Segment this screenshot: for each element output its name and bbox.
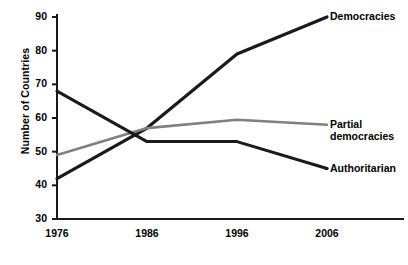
x-axis-tick-label: 2006 [302, 227, 352, 239]
x-axis-tick-label: 1976 [32, 227, 82, 239]
series-label-partial-line2: democracies [330, 130, 394, 142]
series-line-partial-democracies [57, 120, 327, 155]
axis-lines [57, 14, 404, 219]
y-axis-tick-label: 50 [21, 145, 47, 157]
y-axis-tick-label: 60 [21, 111, 47, 123]
y-axis-tick-label: 70 [21, 77, 47, 89]
line-chart: Number of Countries 30405060708090 19761… [0, 0, 408, 265]
series-lines [57, 17, 327, 179]
x-axis-tick-label: 1986 [122, 227, 172, 239]
y-axis-tick-label: 90 [21, 10, 47, 22]
series-label-partial-democracies: Partial democracies [330, 118, 394, 143]
series-line-democracies [57, 17, 327, 179]
series-label-authoritarian: Authoritarian [330, 162, 396, 175]
y-axis-tick-label: 40 [21, 178, 47, 190]
series-label-democracies: Democracies [330, 10, 395, 23]
x-axis-tick-label: 1996 [212, 227, 262, 239]
series-label-partial-line1: Partial [330, 118, 362, 130]
y-axis-tick-label: 30 [21, 212, 47, 224]
y-axis-tick-label: 80 [21, 44, 47, 56]
